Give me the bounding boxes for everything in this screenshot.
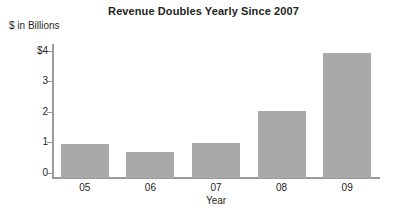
x-tick-label: 08 [250, 182, 314, 193]
bar-06[interactable] [126, 152, 174, 178]
y-tick-label: 0 [42, 166, 48, 179]
y-tick-label: $4 [37, 44, 48, 57]
bar-09[interactable] [323, 53, 371, 178]
x-tick-label: 09 [315, 182, 379, 193]
bar-05[interactable] [61, 144, 109, 178]
y-tick-label: 1 [42, 135, 48, 148]
y-tick-label: 3 [42, 74, 48, 87]
bar-chart-figure: Revenue Doubles Yearly Since 2007 $ in B… [0, 0, 407, 215]
x-tick-label: 05 [53, 182, 117, 193]
bar-slot: 05 [53, 45, 117, 178]
bar-08[interactable] [258, 111, 306, 178]
bar-series: 05 06 07 08 09 [52, 45, 380, 178]
plot-area: $4 3 2 1 0 05 06 [52, 45, 380, 178]
x-tick-label: 06 [118, 182, 182, 193]
bar-slot: 08 [250, 45, 314, 178]
bar-slot: 09 [315, 45, 379, 178]
bar-slot: 06 [118, 45, 182, 178]
x-axis-title: Year [52, 195, 380, 206]
y-axis-title: $ in Billions [9, 20, 60, 31]
x-tick-label: 07 [184, 182, 248, 193]
bar-slot: 07 [184, 45, 248, 178]
y-tick-label: 2 [42, 105, 48, 118]
chart-title: Revenue Doubles Yearly Since 2007 [0, 5, 407, 17]
bar-07[interactable] [192, 143, 240, 178]
